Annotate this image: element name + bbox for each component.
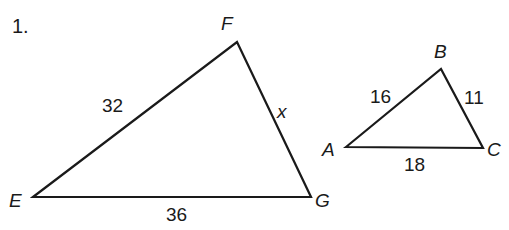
vertex-label-a: A: [322, 140, 335, 159]
vertex-label-g: G: [315, 191, 330, 210]
triangle-abc: [346, 69, 483, 148]
side-label-bc: 11: [464, 88, 484, 107]
side-label-ab: 16: [370, 87, 391, 106]
triangle-efg: [33, 42, 311, 197]
vertex-label-e: E: [9, 191, 22, 210]
side-label-eg: 36: [166, 205, 187, 224]
side-label-fg: x: [277, 102, 287, 121]
vertex-label-f: F: [221, 14, 233, 33]
side-label-ef: 32: [102, 96, 123, 115]
triangles-drawing: [0, 0, 509, 230]
problem-number: 1.: [12, 16, 29, 36]
side-label-ac: 18: [404, 155, 425, 174]
vertex-label-b: B: [434, 42, 447, 61]
vertex-label-c: C: [487, 140, 501, 159]
